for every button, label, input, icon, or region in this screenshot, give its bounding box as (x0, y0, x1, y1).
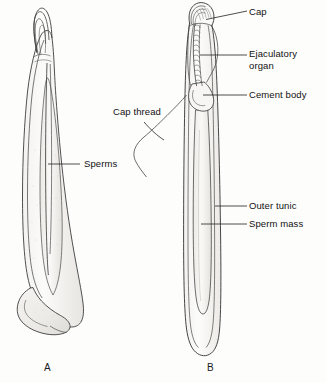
label-cap-thread: Cap thread (113, 106, 161, 118)
label-sperms: Sperms (84, 158, 117, 170)
label-sperm-mass: Sperm mass (249, 218, 303, 230)
label-cement-body: Cement body (249, 89, 307, 101)
caption-panel-a: A (44, 362, 51, 373)
label-cap: Cap (249, 6, 267, 18)
leader-cap-thread (144, 122, 164, 140)
label-ejaculatory-organ: Ejaculatory organ (249, 48, 297, 71)
caption-panel-b: B (207, 362, 214, 373)
label-outer-tunic: Outer tunic (249, 200, 297, 212)
panel-b-sperm-mass (193, 110, 211, 314)
spermatophore-diagram-figure: Cap Ejaculatory organ Cement body Cap th… (0, 0, 326, 383)
panel-b-drawing (134, 3, 247, 356)
panel-a-drawing (17, 8, 83, 335)
